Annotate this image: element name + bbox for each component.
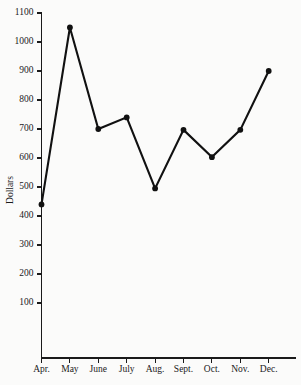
y-tick-label: 300 <box>19 239 34 249</box>
y-tick-label: 1100 <box>15 7 34 17</box>
data-series-line <box>42 28 269 205</box>
y-tick-label: 100 <box>19 297 34 307</box>
y-tick-label: 800 <box>19 94 34 104</box>
line-chart-plot: Dollars 10020030040050060070080090010001… <box>0 0 301 385</box>
data-point-marker <box>124 115 130 121</box>
y-tick-label: 1000 <box>15 36 34 46</box>
y-tick-label: 600 <box>19 152 34 162</box>
y-axis-tick-labels: 10020030040050060070080090010001100 <box>15 7 34 307</box>
x-tick-label: Oct. <box>204 364 220 374</box>
data-point-marker <box>181 127 187 133</box>
data-point-marker <box>152 186 158 192</box>
x-tick-label: May <box>61 364 79 374</box>
x-tick-label: Aug. <box>146 364 165 374</box>
y-axis-title: Dollars <box>5 176 15 204</box>
y-tick-label: 700 <box>19 123 34 133</box>
x-axis-tick-labels: Apr.MayJuneJulyAug.Sept.Oct.Nov.Dec. <box>33 364 277 374</box>
y-tick-label: 900 <box>19 65 34 75</box>
chart-figure: Dollars 10020030040050060070080090010001… <box>0 0 301 385</box>
x-tick-label: June <box>90 364 107 374</box>
x-tick-label: July <box>119 364 135 374</box>
data-point-marker <box>209 154 215 160</box>
data-point-marker <box>95 126 101 132</box>
y-tick-label: 500 <box>19 181 34 191</box>
x-tick-label: Dec. <box>260 364 278 374</box>
data-point-marker <box>237 127 243 133</box>
x-tick-label: Sept. <box>174 364 193 374</box>
y-tick-label: 200 <box>19 268 34 278</box>
x-tick-label: Apr. <box>33 364 50 374</box>
data-point-markers <box>39 25 272 208</box>
data-point-marker <box>67 25 73 31</box>
x-tick-label: Nov. <box>231 364 249 374</box>
data-point-marker <box>266 68 272 74</box>
data-point-marker <box>39 202 45 208</box>
y-tick-label: 400 <box>19 210 34 220</box>
